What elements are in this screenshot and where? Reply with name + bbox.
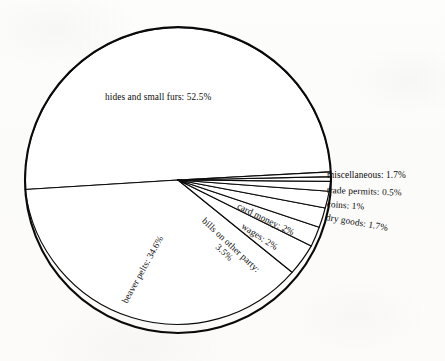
slice-label-miscellaneous: miscellaneous: 1.7%: [327, 170, 406, 180]
slice-label-hides-and-small-furs: hides and small furs: 52.5%: [105, 92, 211, 102]
pie-chart-canvas: [0, 0, 445, 361]
pie-slice-hides-and-small-furs: [25, 28, 331, 190]
pie-chart-figure: hides and small furs: 52.5% miscellaneou…: [0, 0, 445, 361]
